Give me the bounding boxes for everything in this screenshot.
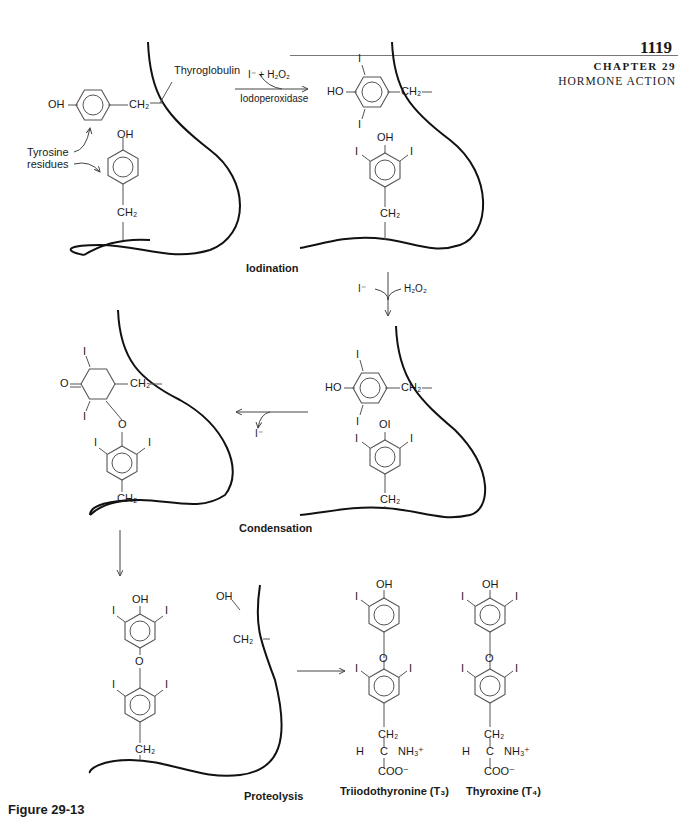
group-oh: OH <box>377 131 394 143</box>
group-iodine: I <box>355 145 358 157</box>
group-nh3: NH₃⁺ <box>504 745 530 758</box>
group-iodine: I <box>358 52 361 64</box>
group-h: H <box>356 745 364 757</box>
thyroid-hormone-synthesis-diagram <box>0 0 690 825</box>
t4-structure <box>467 590 513 768</box>
group-iodine: I <box>515 662 518 674</box>
group-iodine: I <box>112 604 115 616</box>
enzyme-label: Iodoperoxidase <box>240 93 308 104</box>
group-iodine: I <box>355 432 358 444</box>
group-ho: HO <box>327 85 344 97</box>
released-iodide: I⁻ <box>255 428 263 439</box>
group-oxygen: O <box>118 418 127 430</box>
group-ch2: CH₂ <box>378 728 398 740</box>
group-ch2: CH₂ <box>484 728 504 740</box>
group-iodine: I <box>165 678 168 690</box>
tyrosine-residues-label-2: residues <box>27 158 69 170</box>
t3-structure <box>361 590 407 768</box>
step-proteolysis: Proteolysis <box>244 790 303 802</box>
group-iodine: I <box>356 348 359 360</box>
group-iodine: I <box>461 590 464 602</box>
group-ch2: CH₂ <box>129 98 149 110</box>
group-iodine: I <box>410 432 413 444</box>
group-iodine: I <box>165 604 168 616</box>
group-coo: COO⁻ <box>484 765 515 778</box>
thyroglobulin-label: Thyroglobulin <box>174 64 240 76</box>
step-condensation: Condensation <box>239 522 312 534</box>
group-iodine: I <box>94 436 97 448</box>
group-ch2: CH₂ <box>380 207 400 219</box>
group-oh: OH <box>48 98 65 110</box>
panel-condensed-intermediate <box>70 310 233 515</box>
reagent-peroxide: H₂O₂ <box>404 283 427 294</box>
iodination-reagents: I⁻ + H₂O₂ <box>248 69 290 80</box>
group-iodine: I <box>83 410 86 422</box>
group-oh: OH <box>132 593 149 605</box>
group-ch2: CH₂ <box>233 633 253 645</box>
group-iodine: I <box>409 662 412 674</box>
panel-diiodotyrosine-residues <box>300 326 485 517</box>
group-ch2: CH₂ <box>117 492 137 504</box>
group-c: C <box>486 745 494 757</box>
group-iodine: I <box>83 345 86 357</box>
t3-name: Triiodothyronine (T₃) <box>340 785 449 797</box>
group-oh: OH <box>376 578 393 590</box>
group-oh: OH <box>482 578 499 590</box>
group-iodine: I <box>148 436 151 448</box>
second-iodination-arrow <box>375 272 401 316</box>
group-oxygen: O <box>379 652 388 664</box>
group-oxygen: O <box>485 652 494 664</box>
group-oxygen: O <box>135 655 144 667</box>
group-nh3: NH₃⁺ <box>398 745 424 758</box>
group-oi: OI <box>379 418 391 430</box>
group-ho: HO <box>325 381 342 393</box>
group-ch2: CH₂ <box>401 85 421 97</box>
group-iodine: I <box>355 662 358 674</box>
group-ch2: CH₂ <box>135 743 155 755</box>
figure-caption: Figure 29-13 <box>8 802 85 817</box>
group-iodine: I <box>515 590 518 602</box>
group-oh: OH <box>117 128 134 140</box>
group-iodine: I <box>358 118 361 130</box>
group-coo: COO⁻ <box>378 765 409 778</box>
group-oxygen: O <box>60 377 69 389</box>
t4-name: Thyroxine (T₄) <box>466 785 541 797</box>
group-c: C <box>380 745 388 757</box>
group-iodine: I <box>356 415 359 427</box>
group-iodine: I <box>461 662 464 674</box>
group-ch2: CH₂ <box>401 381 421 393</box>
group-ch2: CH₂ <box>117 206 137 218</box>
reagent-iodide: I⁻ <box>358 283 366 294</box>
group-oh: OH <box>216 590 233 602</box>
condensation-arrow <box>236 412 308 428</box>
group-iodine: I <box>410 145 413 157</box>
tyrosine-residues-label-1: Tyrosine <box>27 146 69 158</box>
group-ch2: CH₂ <box>130 377 150 389</box>
group-h: H <box>462 745 470 757</box>
group-iodine: I <box>355 590 358 602</box>
panel-bound-thyroxine <box>90 585 282 776</box>
group-ch2: CH₂ <box>380 493 400 505</box>
step-iodination: Iodination <box>246 262 299 274</box>
group-iodine: I <box>112 678 115 690</box>
